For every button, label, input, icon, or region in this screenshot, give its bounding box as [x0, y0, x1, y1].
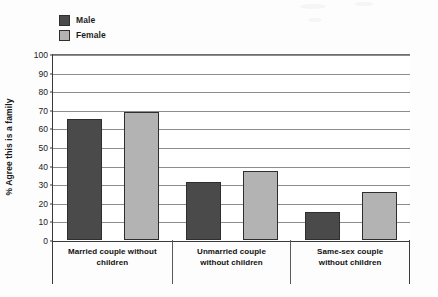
y-tick-label-90: 90: [39, 69, 48, 79]
x-axis-category-3: Same-sex couple without children: [290, 240, 409, 284]
x-axis-category-label: Unmarried couple without children: [197, 247, 266, 268]
legend-swatch-female-icon: [59, 30, 70, 41]
x-axis-category-band: Married couple without childrenUnmarried…: [52, 240, 410, 284]
y-tick-label-80: 80: [39, 87, 48, 97]
bar-female-group-1: [124, 112, 159, 240]
scan-artifact: [308, 18, 322, 22]
bar-male-group-1: [67, 119, 102, 240]
bar-chart-figure: Male Female % Agree this is a family 100…: [0, 0, 438, 297]
x-axis-category-2: Unmarried couple without children: [172, 240, 291, 284]
bars-layer: [53, 55, 410, 240]
y-tick-label-20: 20: [39, 199, 48, 209]
legend-item-female: Female: [59, 29, 106, 41]
bar-male-group-2: [186, 182, 221, 240]
y-tick-label-100: 100: [34, 50, 48, 60]
x-axis-category-label: Same-sex couple without children: [317, 247, 383, 268]
y-tick-label-10: 10: [39, 217, 48, 227]
y-axis-title: % Agree this is a family: [2, 54, 15, 240]
x-axis-category-1: Married couple without children: [53, 240, 172, 284]
y-tick-label-40: 40: [39, 162, 48, 172]
y-tick-label-50: 50: [39, 143, 48, 153]
bar-male-group-3: [305, 212, 340, 240]
scan-artifact: [355, 2, 373, 6]
chart-legend: Male Female: [59, 14, 106, 41]
bar-female-group-3: [362, 192, 397, 240]
y-axis-title-text: % Agree this is a family: [4, 98, 14, 195]
bar-female-group-2: [243, 171, 278, 240]
y-tick-label-30: 30: [39, 180, 48, 190]
legend-label-female: Female: [76, 30, 106, 41]
y-tick-label-0: 0: [43, 236, 48, 246]
x-axis-category-label: Married couple without children: [68, 247, 157, 268]
y-tick-label-70: 70: [39, 106, 48, 116]
scan-artifact: [300, 4, 326, 9]
legend-label-male: Male: [76, 15, 95, 26]
plot-area: 1009080706050403020100: [52, 54, 410, 240]
y-tick-label-60: 60: [39, 124, 48, 134]
legend-swatch-male-icon: [59, 15, 70, 26]
legend-item-male: Male: [59, 14, 106, 26]
